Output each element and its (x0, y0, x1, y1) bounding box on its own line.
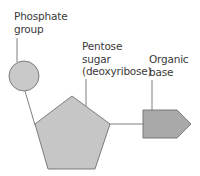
phosphate-sugar-bond (25, 91, 35, 125)
pentose-label-line-2: sugar (82, 53, 152, 66)
pentose-sugar-label: Pentose sugar (deoxyribose) (82, 40, 152, 78)
organic-base-label: Organic base (149, 53, 188, 78)
base-label-line-1: Organic (149, 53, 188, 66)
phosphate-group-label: Phosphate group (14, 10, 67, 35)
base-label-line-2: base (149, 66, 188, 79)
pentose-sugar-shape (35, 96, 110, 169)
pentose-label-line-1: Pentose (82, 40, 152, 53)
phosphate-label-line-2: group (14, 23, 67, 36)
phosphate-label-line-1: Phosphate (14, 10, 67, 23)
phosphate-group-shape (9, 61, 39, 91)
pentose-label-line-3: (deoxyribose) (82, 65, 152, 78)
organic-base-shape (143, 110, 191, 138)
